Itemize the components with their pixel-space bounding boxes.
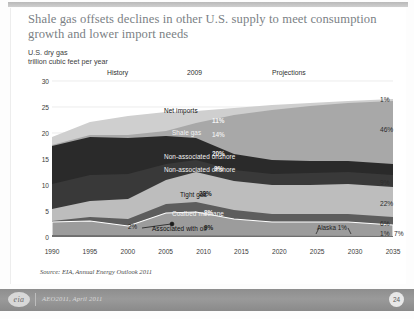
y-tick: 0 — [27, 234, 49, 241]
chart: History 2009 Projections 30 25 20 15 10 … — [27, 78, 393, 250]
share-2035-nonassoc-offshore: 9% — [380, 179, 390, 186]
year-divider-label: 2009 — [187, 69, 202, 76]
share-2009-shale-gas: 14% — [212, 131, 225, 138]
eia-logo: eia — [8, 292, 30, 307]
x-tick: 2010 — [196, 248, 211, 255]
footer-bar: eia AEO2011, April 2011 24 — [0, 289, 414, 311]
plot-area: Net imports Shale gas Non-associated ons… — [52, 78, 393, 238]
share-2009-nonassoc-offshore: 9% — [214, 165, 223, 172]
y-tick: 20 — [27, 130, 49, 137]
x-tick: 2025 — [310, 248, 325, 255]
series-label-net-imports: Net imports — [164, 107, 198, 114]
share-2035-coalbed-methane: 6% — [380, 220, 390, 227]
x-tick: 2020 — [272, 248, 287, 255]
share-2035-tight-gas: 22% — [380, 200, 393, 207]
associated-callout-label: 2% — [128, 223, 137, 230]
y-axis: 30 25 20 15 10 5 0 — [27, 78, 49, 238]
page-title: Shale gas offsets declines in other U.S.… — [28, 12, 388, 42]
share-2009-coalbed-methane: 8% — [204, 209, 213, 216]
share-2035-nonassoc-onshore: 8% — [380, 166, 390, 173]
series-label-associated-with-oil: Associated with oil — [152, 225, 206, 232]
x-tick: 2030 — [348, 248, 363, 255]
x-tick: 2005 — [158, 248, 173, 255]
y-tick: 10 — [27, 182, 49, 189]
share-2009-associated-with-oil: 9% — [204, 224, 213, 231]
share-2035-alaska: 1% — [380, 230, 390, 237]
x-tick: 2015 — [234, 248, 249, 255]
footer-divider — [35, 293, 36, 306]
series-label-nonassoc-offshore: Non-associated offshore — [164, 166, 235, 173]
share-2035-net-imports: 1% — [380, 96, 390, 103]
x-tick: 2035 — [386, 248, 401, 255]
share-2009-net-imports: 11% — [212, 117, 224, 124]
share-2009-nonassoc-onshore: 20% — [212, 150, 225, 157]
y-tick: 25 — [27, 104, 49, 111]
series-label-coalbed-methane: Coalbed methane — [172, 210, 224, 217]
projections-label: Projections — [272, 69, 306, 76]
slide: Shale gas offsets declines in other U.S.… — [0, 0, 414, 319]
share-2035-associated-with-oil: 7% — [394, 230, 404, 237]
subtitle-line-2: trillion cubic feet per year — [28, 57, 108, 66]
subtitle-line-1: U.S. dry gas — [28, 48, 108, 57]
subtitle: U.S. dry gas trillion cubic feet per yea… — [28, 48, 108, 67]
x-tick: 1990 — [45, 248, 60, 255]
y-tick: 5 — [27, 208, 49, 215]
share-2035-shale-gas: 46% — [380, 126, 393, 133]
x-tick: 2000 — [120, 248, 135, 255]
history-label: History — [107, 69, 128, 76]
x-tick: 1995 — [83, 248, 98, 255]
series-label-shale-gas: Shale gas — [172, 129, 201, 136]
x-axis: 1990 1995 2000 2005 2010 2015 2020 2025 … — [52, 248, 393, 260]
y-tick: 15 — [27, 156, 49, 163]
footer-caption: AEO2011, April 2011 — [42, 295, 102, 302]
alaska-callout-label: Alaska 1% — [317, 224, 347, 231]
y-tick: 30 — [27, 78, 49, 85]
page-number-badge: 24 — [389, 292, 404, 307]
source-note: Source: EIA, Annual Energy Outlook 2011 — [40, 268, 152, 275]
scan-artifact-strip — [8, 2, 408, 7]
share-2035-column: 1% 46% 8% 9% 22% 6% 1% 7% — [380, 78, 412, 250]
share-2009-tight-gas: 28% — [199, 190, 212, 197]
